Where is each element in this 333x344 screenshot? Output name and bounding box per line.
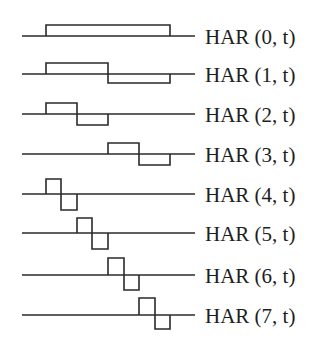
har-label: HAR (2, t) [205,103,295,127]
har-row-7: HAR (7, t) [22,298,295,329]
har-label: HAR (5, t) [205,222,295,246]
har-row-6: HAR (6, t) [22,258,295,290]
har-row-1: HAR (1, t) [22,63,295,87]
har-row-4: HAR (4, t) [22,179,295,210]
haar-pulse-waveform [108,258,139,290]
har-label: HAR (7, t) [205,304,295,328]
waveform-rows: HAR (0, t)HAR (1, t)HAR (2, t)HAR (3, t)… [22,25,295,329]
har-label: HAR (0, t) [205,25,295,49]
haar-pulse-waveform [46,25,170,36]
har-label: HAR (6, t) [205,264,295,288]
har-row-5: HAR (5, t) [22,218,295,249]
har-label: HAR (3, t) [205,143,295,167]
haar-pulse-waveform [46,63,170,83]
har-row-2: HAR (2, t) [22,103,295,127]
har-label: HAR (4, t) [205,183,295,207]
har-row-3: HAR (3, t) [22,143,295,167]
haar-pulse-waveform [139,298,170,329]
haar-functions-diagram: HAR (0, t)HAR (1, t)HAR (2, t)HAR (3, t)… [0,0,333,344]
har-label: HAR (1, t) [205,63,295,87]
har-row-0: HAR (0, t) [22,25,295,49]
